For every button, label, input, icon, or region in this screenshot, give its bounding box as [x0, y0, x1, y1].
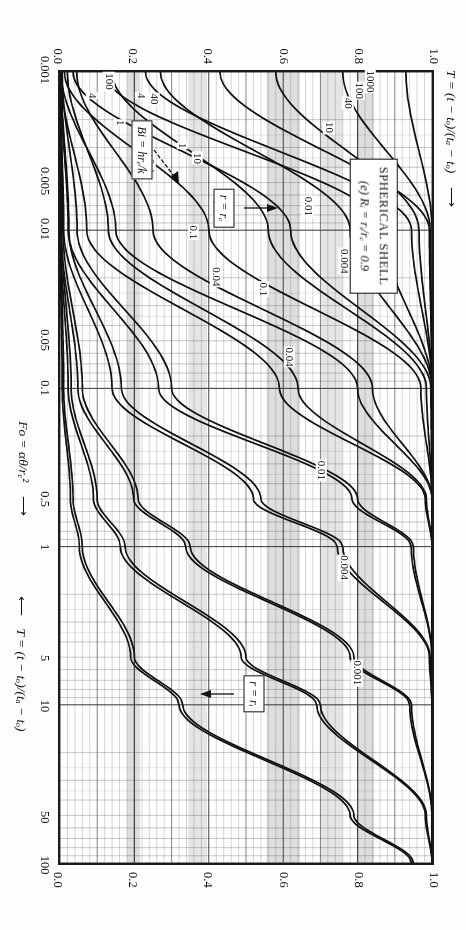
x-tick-label: 0.5	[37, 491, 52, 507]
x-tick-label: 0.05	[37, 329, 52, 351]
curve-value-label: 0.01	[315, 460, 327, 481]
biot-number-callout-text: Bi = hrₑ/k	[136, 126, 150, 173]
x-tick-label: 10	[37, 700, 52, 713]
y-axis-title-top: T = (t − tₒ)/(tₐ − tₒ) ⟶	[443, 70, 460, 206]
curve-value-label: 0.1	[188, 224, 200, 240]
y-tick-label-right: 0.2	[126, 872, 141, 888]
curve-value-label: 1	[114, 119, 126, 127]
figure-title-line1: SPHERICAL SHELL	[374, 167, 393, 286]
inner-surface-callout: r = rᵢ	[244, 675, 265, 712]
x-tick-label: 1	[37, 544, 52, 550]
y-tick-label-left: 0.8	[351, 36, 366, 64]
x-tick-label: 0.1	[37, 380, 52, 396]
x-tick-label: 0.01	[37, 218, 52, 240]
y-axis-arrow-bottom: ⟵	[14, 596, 29, 615]
curve-value-label: 10	[323, 121, 335, 134]
curve-value-label: 10	[191, 152, 203, 165]
y-axis-arrow-top: ⟶	[444, 187, 459, 206]
curve-rr-bi-1000	[406, 72, 432, 863]
x-axis-title: Fo = αθ/rₑ² ⟶	[15, 421, 32, 515]
y-tick-label-left: 0.4	[201, 36, 216, 64]
x-tick-label: 0.005	[37, 167, 52, 195]
y-tick-label-right: 0.0	[51, 872, 66, 888]
curve-value-label: 0.001	[351, 660, 363, 687]
outer-surface-callout: r = rₑ	[214, 189, 235, 228]
y-tick-label-right: 0.4	[201, 872, 216, 888]
curve-value-label: 0.04	[210, 266, 222, 287]
curve-value-label: 4	[86, 92, 98, 100]
panel-letter: (e)	[358, 181, 372, 198]
curve-value-label: 0.004	[338, 248, 350, 275]
y-tick-label-right: 0.8	[351, 872, 366, 888]
figure-stage: 0.0010.0050.010.050.10.5151050100 0.00.2…	[0, 0, 466, 930]
x-tick-label: 50	[37, 811, 52, 824]
y-tick-label-left: 0.6	[276, 36, 291, 64]
curve-value-label: 1000	[364, 69, 376, 93]
x-axis-title-text: Fo = αθ/rₑ²	[16, 421, 31, 482]
y-tick-label-right: 0.6	[276, 872, 291, 888]
outer-surface-callout-text: r = rₑ	[218, 195, 232, 222]
inner-surface-callout-text: r = rᵢ	[248, 681, 262, 706]
curve-value-label: 0.1	[257, 282, 269, 298]
curve-value-label: 40	[342, 97, 354, 110]
y-axis-title-bottom: ⟵ T = (t − tₒ)/(tₐ − tₒ)	[13, 596, 30, 732]
curve-value-label: 40	[148, 92, 160, 105]
x-axis-arrow: ⟶	[16, 496, 31, 515]
y-axis-title-bottom-text: T = (t − tₒ)/(tₐ − tₒ)	[14, 628, 29, 731]
figure-title-box: SPHERICAL SHELL (e) Rᵢ = rᵢ/rₑ = 0.9	[350, 159, 398, 294]
y-tick-label-left: 0.2	[126, 36, 141, 64]
curve-value-label: 4	[135, 92, 147, 100]
curve-value-label: 100	[353, 81, 365, 100]
y-tick-label-left: 1.0	[427, 36, 442, 64]
x-tick-label: 5	[37, 655, 52, 661]
curve-value-label: 100	[103, 72, 115, 91]
y-tick-label-left: 0.0	[51, 36, 66, 64]
figure-title-line2: (e) Rᵢ = rᵢ/rₑ = 0.9	[355, 167, 374, 286]
figure-title-line2-text: Rᵢ = rᵢ/rₑ = 0.9	[358, 198, 372, 271]
biot-number-callout: Bi = hrₑ/k	[132, 120, 153, 179]
y-tick-label-right: 1.0	[427, 872, 442, 888]
curve-value-label: 0.004	[338, 554, 350, 581]
curve-value-label: 1	[176, 142, 188, 150]
curve-value-label: 0.01	[302, 196, 314, 217]
curve-value-label: 0.04	[283, 347, 295, 368]
y-axis-title-top-text: T = (t − tₒ)/(tₐ − tₒ)	[444, 70, 459, 173]
